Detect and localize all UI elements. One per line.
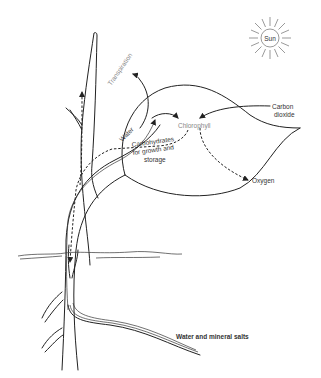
soil-line: [18, 252, 182, 259]
chlorophyll-label: Chlorophyll: [178, 122, 211, 130]
roots: [42, 292, 200, 355]
transpiration-label: Transpiration: [106, 51, 134, 87]
plant-diagram: Sun Transpiration Water Chlorophyll Carb…: [0, 0, 321, 378]
co2-arrow: Carbon dioxide: [200, 103, 295, 118]
sun-icon: Sun: [249, 17, 291, 59]
oxygen-arrow: Oxygen: [200, 128, 275, 185]
carbohydrates-label-line3: storage: [144, 156, 166, 164]
transpiration-arrow: Transpiration: [106, 51, 148, 128]
sun-label: Sun: [264, 35, 276, 42]
co2-label-line1: Carbon: [272, 103, 294, 110]
co2-label-line2: dioxide: [274, 111, 295, 118]
oxygen-label: Oxygen: [252, 177, 275, 185]
water-minerals-label: Water and mineral salts: [176, 333, 249, 340]
